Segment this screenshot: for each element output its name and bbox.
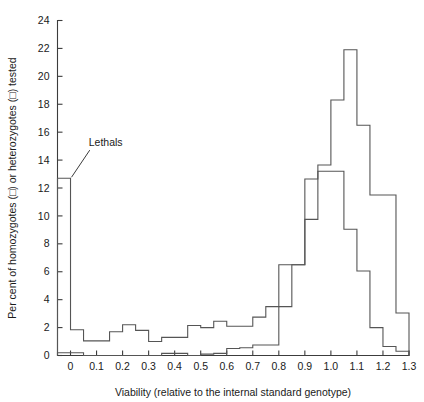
annotation-layer: Lethals — [72, 136, 123, 177]
x-tick-label-0.9: 0.9 — [298, 360, 313, 372]
x-tick-label-1.1: 1.1 — [350, 360, 365, 372]
y-tick-label-6: 6 — [44, 265, 50, 277]
annotation-leader-lethals — [72, 150, 90, 177]
y-tick-label-12: 12 — [38, 182, 50, 194]
y-axis: 024681012141618202224 — [38, 14, 63, 361]
y-axis-ticks: 024681012141618202224 — [38, 14, 63, 361]
x-tick-label-0: 0 — [68, 360, 74, 372]
y-tick-label-4: 4 — [44, 293, 50, 305]
series-heterozygotes — [58, 171, 410, 355]
x-tick-label-1.0: 1.0 — [324, 360, 339, 372]
x-tick-label-0.8: 0.8 — [272, 360, 287, 372]
x-tick-label-0.7: 0.7 — [245, 360, 260, 372]
annotation-label-lethals: Lethals — [89, 136, 123, 148]
viability-histogram-figure: 024681012141618202224 00.10.20.30.40.50.… — [0, 0, 424, 402]
x-tick-label-0.6: 0.6 — [219, 360, 234, 372]
y-tick-label-18: 18 — [38, 98, 50, 110]
y-tick-label-22: 22 — [38, 42, 50, 54]
x-axis-title: Viability (relative to the internal stan… — [115, 386, 351, 398]
y-tick-label-2: 2 — [44, 321, 50, 333]
y-tick-label-16: 16 — [38, 126, 50, 138]
y-tick-label-14: 14 — [38, 154, 50, 166]
x-axis: 00.10.20.30.40.50.60.70.80.91.01.11.21.3 — [58, 351, 417, 372]
x-tick-label-0.5: 0.5 — [193, 360, 208, 372]
y-tick-label-8: 8 — [44, 237, 50, 249]
series-homozygotes — [58, 50, 410, 356]
x-tick-label-0.4: 0.4 — [167, 360, 182, 372]
x-tick-label-1.3: 1.3 — [402, 360, 417, 372]
x-tick-label-0.1: 0.1 — [89, 360, 104, 372]
y-tick-label-0: 0 — [44, 349, 50, 361]
x-tick-label-0.3: 0.3 — [141, 360, 156, 372]
x-axis-ticks: 00.10.20.30.40.50.60.70.80.91.01.11.21.3 — [68, 351, 417, 372]
y-tick-label-10: 10 — [38, 210, 50, 222]
y-tick-label-20: 20 — [38, 70, 50, 82]
x-tick-label-0.2: 0.2 — [115, 360, 130, 372]
chart-canvas: 024681012141618202224 00.10.20.30.40.50.… — [0, 0, 424, 402]
series-layer — [58, 50, 410, 356]
y-tick-label-24: 24 — [38, 14, 50, 26]
x-tick-label-1.2: 1.2 — [376, 360, 391, 372]
y-axis-title: Per cent of homozygotes (□) or heterozyg… — [6, 57, 18, 318]
